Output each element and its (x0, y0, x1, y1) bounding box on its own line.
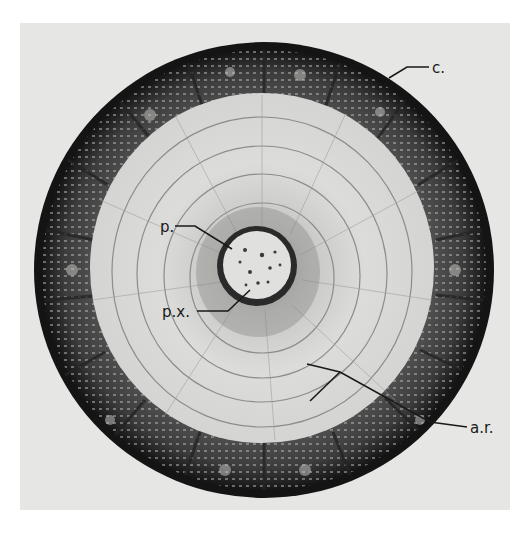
label-px: p.x. (162, 303, 190, 321)
label-c: c. (432, 59, 445, 77)
micrograph: c. p. p.x. a.r. (0, 0, 523, 535)
pith (217, 226, 297, 306)
stem-cross-section-figure: c. p. p.x. a.r. (0, 0, 523, 535)
label-ar: a.r. (470, 419, 494, 437)
label-p: p. (160, 218, 174, 236)
